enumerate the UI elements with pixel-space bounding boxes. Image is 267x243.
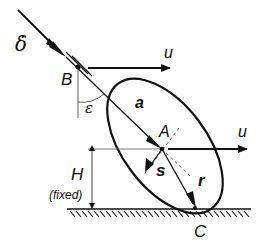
- label-s: s: [156, 162, 165, 179]
- label-a-point: A: [159, 124, 170, 140]
- diagram-svg: [0, 0, 267, 243]
- vector-s-arrowhead: [145, 158, 154, 172]
- diagram-canvas: δ̇ B ε u a A u s r H (fixed) C: [0, 0, 267, 243]
- label-delta-dot: δ̇: [15, 34, 27, 54]
- label-epsilon: ε: [85, 101, 93, 116]
- dashed-axis-line-2: [162, 149, 190, 176]
- label-a: a: [135, 95, 144, 111]
- label-r: r: [198, 172, 205, 189]
- label-b: B: [61, 71, 72, 88]
- label-fixed: (fixed): [49, 189, 82, 201]
- label-u-mid: u: [238, 124, 247, 140]
- label-h: H: [71, 166, 83, 183]
- tire-ellipse: [85, 58, 246, 233]
- label-u-top: u: [164, 45, 173, 61]
- label-c: C: [194, 223, 206, 240]
- ground-surface: [67, 209, 251, 217]
- vector-r-arrowhead: [186, 191, 196, 208]
